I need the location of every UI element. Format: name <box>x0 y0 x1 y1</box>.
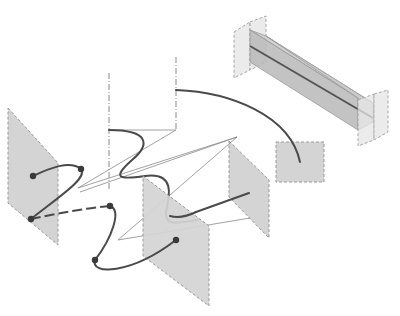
beam-right-endplate-back <box>358 94 374 146</box>
point-p2 <box>78 166 84 172</box>
curve-segment-3 <box>95 206 115 260</box>
beam-axis-line <box>250 46 373 118</box>
point-p5 <box>92 257 98 263</box>
beam-right-endplate-front <box>374 90 388 140</box>
right-plane <box>229 141 269 238</box>
zigzag-construction-diag <box>80 137 237 192</box>
point-p6 <box>173 237 179 243</box>
point-p1 <box>30 173 36 179</box>
diagram-svg <box>0 0 400 316</box>
point-p4 <box>107 203 113 209</box>
beam-assembly <box>234 16 388 146</box>
beam-left-endplate-back <box>234 22 250 78</box>
diagram-canvas <box>0 0 400 316</box>
point-p3 <box>28 216 34 222</box>
